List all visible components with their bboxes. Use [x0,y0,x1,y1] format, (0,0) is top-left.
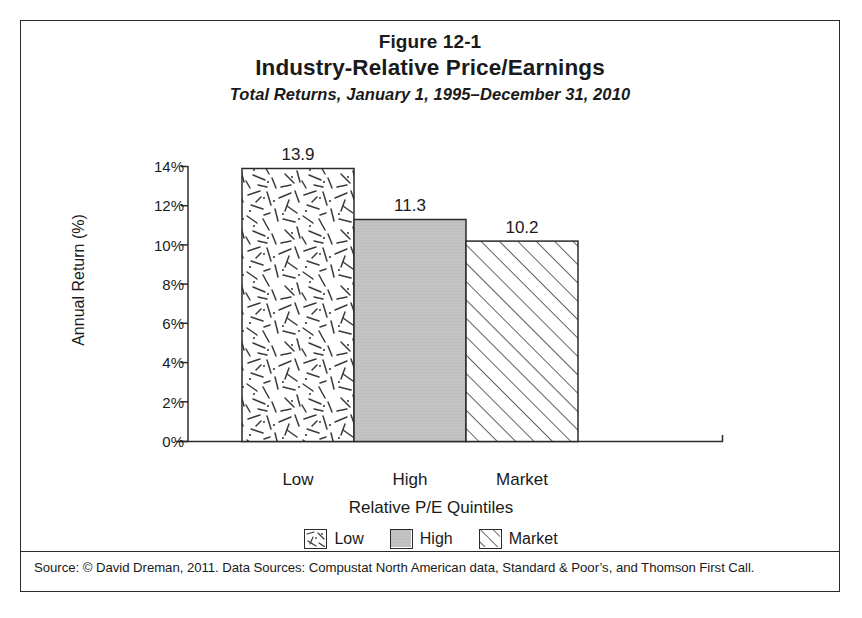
y-tick-label-10: 10% [136,238,184,253]
legend-item-high[interactable]: High [390,529,453,549]
bar-value-low: 13.9 [228,145,368,164]
legend-item-low[interactable]: Low [304,529,363,549]
bar-high [354,220,466,442]
y-tick-label-14: 14% [136,159,184,174]
y-tick-label-8: 8% [136,277,184,292]
x-axis-title: Relative P/E Quintiles [21,498,841,517]
legend-swatch-low-icon [304,529,327,549]
legend-swatch-market-icon [479,529,502,549]
source-divider [21,551,839,552]
legend-item-market[interactable]: Market [479,529,558,549]
y-tick-label-0: 0% [136,434,184,449]
bar-value-high: 11.3 [340,196,480,215]
y-tick-label-6: 6% [136,316,184,331]
y-tick-label-2: 2% [136,395,184,410]
legend-label-market: Market [509,530,558,548]
figure-frame: Figure 12-1 Industry-Relative Price/Earn… [20,20,840,592]
bar-market [466,241,578,441]
legend-label-low: Low [334,530,363,548]
legend-label-high: High [420,530,453,548]
y-tick-label-12: 12% [136,198,184,213]
y-tick-label-4: 4% [136,355,184,370]
bar-low [242,169,354,442]
legend-swatch-high-icon [390,529,413,549]
x-tick-label-market: Market [452,470,592,489]
chart-plot-area: Annual Return (%) 14% 12% 10% 8% 6% 4% 2… [21,21,841,593]
source-note: Source: © David Dreman, 2011. Data Sourc… [34,559,829,576]
bar-value-market: 10.2 [452,218,592,237]
chart-legend: Low High Market [21,529,841,549]
y-axis-title: Annual Return (%) [70,170,88,390]
